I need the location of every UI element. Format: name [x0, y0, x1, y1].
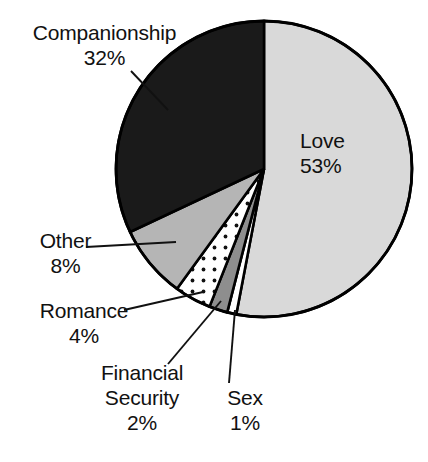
label-love: Love 53% — [300, 128, 378, 178]
label-financial-security: Financial Security 2% — [78, 360, 206, 435]
label-companionship-name: Companionship — [12, 20, 197, 45]
label-financial-security-name-line1: Financial — [78, 360, 206, 385]
label-other-name: Other — [18, 228, 113, 253]
label-financial-security-name-line2: Security — [78, 385, 206, 410]
label-romance-value: 4% — [14, 323, 154, 348]
label-other-value: 8% — [18, 253, 113, 278]
leader-line-sex — [229, 310, 235, 383]
label-financial-security-value: 2% — [78, 410, 206, 435]
pie-chart: Companionship 32% Love 53% Other 8% Roma… — [0, 0, 428, 462]
label-sex-value: 1% — [212, 410, 278, 435]
label-companionship: Companionship 32% — [12, 20, 197, 70]
label-sex: Sex 1% — [212, 385, 278, 435]
label-sex-name: Sex — [212, 385, 278, 410]
label-companionship-value: 32% — [12, 45, 197, 70]
label-romance: Romance 4% — [14, 298, 154, 348]
label-romance-name: Romance — [14, 298, 154, 323]
label-love-value: 53% — [300, 153, 378, 178]
leader-line-financial-security — [168, 301, 221, 364]
label-other: Other 8% — [18, 228, 113, 278]
label-love-name: Love — [300, 128, 378, 153]
